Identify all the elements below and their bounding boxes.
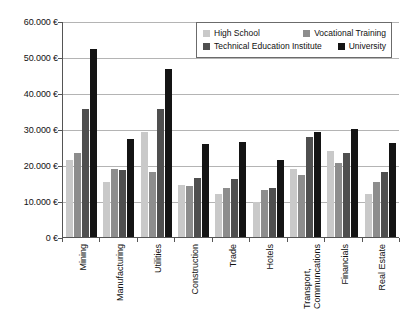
bar xyxy=(306,137,313,237)
x-tick-label: Transport, Communcations xyxy=(302,244,322,309)
bar xyxy=(290,169,297,237)
x-tick-label: Real Estate xyxy=(377,244,387,291)
x-tick-label: Hotels xyxy=(265,244,275,270)
x-tick-mark xyxy=(362,238,363,242)
bar xyxy=(277,160,284,237)
x-tick-label: Utilities xyxy=(153,244,163,273)
x-tick-mark xyxy=(137,238,138,242)
legend-entry-technical-education-institute[interactable]: Technical Education Institute xyxy=(203,42,338,51)
bar xyxy=(119,170,126,237)
bar xyxy=(351,129,358,237)
bar xyxy=(389,143,396,237)
x-tick-mark xyxy=(249,238,250,242)
y-tick-label: 50.000 € xyxy=(0,54,58,63)
x-tick-label: Mining xyxy=(78,244,88,271)
bar xyxy=(194,178,201,237)
legend-row: Technical Education Institute University xyxy=(203,40,386,53)
bar xyxy=(90,49,97,237)
y-tick-label: 20.000 € xyxy=(0,162,58,171)
bar xyxy=(343,153,350,237)
legend-row: High School Vocational Training xyxy=(203,27,386,40)
bar xyxy=(231,179,238,237)
bar xyxy=(381,172,388,237)
bar xyxy=(82,109,89,237)
x-tick-label: Financials xyxy=(340,244,350,285)
bar xyxy=(223,188,230,237)
y-tick-label: 30.000 € xyxy=(0,126,58,135)
y-tick-label: 40.000 € xyxy=(0,90,58,99)
bar xyxy=(202,144,209,237)
legend-swatch-high-school xyxy=(203,30,210,37)
bar xyxy=(157,109,164,237)
bar xyxy=(149,172,156,237)
bar xyxy=(261,190,268,237)
bar xyxy=(373,182,380,237)
bar xyxy=(127,139,134,237)
bar xyxy=(178,185,185,237)
y-tick-label: 60.000 € xyxy=(0,18,58,27)
bar xyxy=(327,151,334,237)
bar xyxy=(215,194,222,237)
bar xyxy=(239,142,246,237)
x-tick-mark xyxy=(62,238,63,242)
legend-label-high-school: High School xyxy=(214,29,260,38)
bar xyxy=(186,186,193,237)
chart-legend: High School Vocational Training Technica… xyxy=(196,22,392,58)
x-tick-mark xyxy=(324,238,325,242)
legend-entry-vocational-training[interactable]: Vocational Training xyxy=(303,29,386,38)
bar xyxy=(141,132,148,237)
bar-group xyxy=(63,22,100,237)
x-tick-mark xyxy=(287,238,288,242)
bar xyxy=(335,163,342,237)
legend-entry-university[interactable]: University xyxy=(338,42,386,51)
bar xyxy=(365,194,372,237)
bar xyxy=(103,182,110,237)
legend-label-technical-education-institute: Technical Education Institute xyxy=(214,42,322,51)
x-tick-mark xyxy=(99,238,100,242)
legend-label-vocational-training: Vocational Training xyxy=(314,29,386,38)
x-tick-mark xyxy=(399,238,400,242)
x-tick-mark xyxy=(212,238,213,242)
bar xyxy=(66,160,73,237)
bar xyxy=(111,169,118,237)
x-tick-mark xyxy=(174,238,175,242)
bar xyxy=(74,153,81,237)
x-tick-label: Trade xyxy=(228,244,238,267)
bar-group xyxy=(100,22,137,237)
legend-swatch-technical-education-institute xyxy=(203,43,210,50)
bar xyxy=(298,175,305,237)
y-tick-label: 0 € xyxy=(0,234,58,243)
legend-label-university: University xyxy=(349,42,386,51)
y-tick-label: 10.000 € xyxy=(0,198,58,207)
bar xyxy=(269,188,276,237)
bar-group xyxy=(138,22,175,237)
legend-swatch-university xyxy=(338,43,345,50)
legend-swatch-vocational-training xyxy=(303,30,310,37)
bar-chart: 0 €10.000 €20.000 €30.000 €40.000 €50.00… xyxy=(0,0,414,332)
bar xyxy=(314,132,321,237)
legend-entry-high-school[interactable]: High School xyxy=(203,29,303,38)
bar xyxy=(165,69,172,237)
x-tick-label: Manufacturing xyxy=(115,244,125,301)
x-tick-label: Construction xyxy=(190,244,200,295)
bar xyxy=(253,202,260,237)
